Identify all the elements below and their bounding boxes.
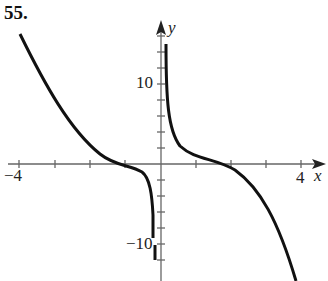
x-axis-label: x: [314, 166, 322, 186]
x-tick-label-neg4: −4: [4, 166, 22, 186]
x-tick-label-4: 4: [296, 168, 305, 188]
function-graph: [0, 0, 328, 281]
y-tick-label-neg10: −10: [126, 234, 153, 254]
x-axis: [8, 160, 318, 168]
y-axis: [157, 30, 165, 281]
y-axis-label: y: [168, 18, 176, 38]
curve-left-branch: [20, 34, 153, 238]
y-tick-label-10: 10: [136, 73, 153, 93]
